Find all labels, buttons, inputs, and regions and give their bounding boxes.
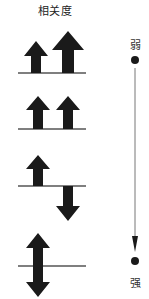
up-arrow-icon <box>56 96 80 129</box>
strong-dot-icon <box>131 257 139 265</box>
up-arrow-large-icon <box>52 31 84 73</box>
panel-3 <box>18 155 86 221</box>
scale-arrowhead-icon <box>132 236 138 252</box>
up-arrow-icon <box>26 96 50 129</box>
panel-2 <box>18 96 86 129</box>
strong-label: 强 <box>125 274 145 290</box>
up-arrow-icon <box>26 155 50 186</box>
down-arrow-icon <box>56 186 80 221</box>
double-arrow-icon <box>26 233 50 297</box>
strength-scale <box>131 56 139 265</box>
panel-4 <box>18 233 86 297</box>
weak-dot-icon <box>131 56 139 64</box>
up-arrow-small-icon <box>24 41 48 73</box>
weak-label: 弱 <box>125 36 145 52</box>
panel-1 <box>18 31 86 73</box>
